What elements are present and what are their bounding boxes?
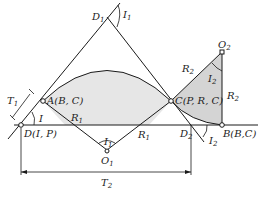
label-D1: D1 [91, 11, 105, 24]
t1-tick-top [29, 89, 34, 94]
label-A: A(B, C) [46, 95, 83, 106]
label-B: B(B,C) [222, 128, 256, 139]
angle-I1-top-arc [117, 5, 120, 27]
label-T2: T2 [101, 177, 113, 190]
point-C [169, 99, 174, 104]
label-I1-center: I1 [103, 136, 112, 149]
label-D: D(I, P) [23, 128, 57, 139]
point-B [220, 123, 225, 128]
label-I1-top: I1 [122, 9, 131, 22]
t1-tick-bottom [10, 115, 15, 120]
curve2-shaded-region [171, 52, 222, 125]
label-T1: T1 [7, 95, 18, 108]
t2-arrow-left [21, 170, 27, 174]
label-I: I [38, 113, 44, 124]
spiral-curve-diagram: D1 I1 A(B, C) C(P, R, C) D(I, P) B(B,C) … [0, 0, 260, 197]
label-I2-bottom: I2 [208, 135, 218, 148]
point-D [19, 123, 24, 128]
angle-I2-bottom-arc [203, 125, 207, 137]
label-R2-side: R2 [226, 90, 240, 103]
point-O2 [220, 50, 224, 54]
label-C: C(P, R, C) [175, 95, 223, 106]
t2-arrow-right [185, 170, 191, 174]
diagram-canvas: D1 I1 A(B, C) C(P, R, C) D(I, P) B(B,C) … [0, 0, 260, 197]
angle-I-arc [32, 112, 35, 125]
label-O1: O1 [101, 155, 114, 168]
point-A [41, 99, 46, 104]
label-R2-top: R2 [181, 63, 195, 76]
point-O1 [105, 149, 109, 153]
label-R1-right: R1 [137, 129, 150, 142]
